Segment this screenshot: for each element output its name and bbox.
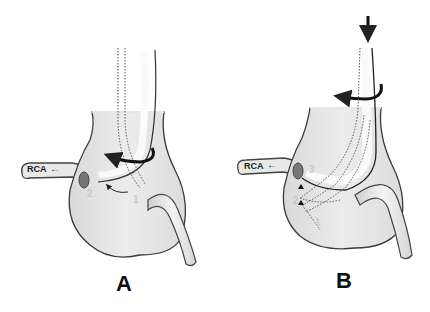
panel-b: 3 2 1 — [238, 16, 412, 259]
panel-label-b: B — [336, 268, 352, 294]
coronary-ostium-b — [293, 163, 303, 179]
step-label-3-b: 3 — [309, 164, 315, 175]
rca-label-a: RCA — [27, 164, 47, 174]
panel-label-a: A — [116, 271, 132, 297]
step-label-2-a: 2 — [87, 188, 93, 199]
rca-arrow-a: ← — [50, 163, 60, 174]
coronary-ostium-a — [79, 172, 89, 188]
step-label-1-a: 1 — [133, 194, 139, 205]
diagram-canvas: 2 1 3 2 1 — [0, 0, 430, 312]
panel-a: 2 1 — [22, 48, 196, 266]
rca-label-b: RCA — [244, 161, 264, 171]
rotation-arrow-b — [342, 84, 381, 99]
step-label-1-b: 1 — [315, 217, 321, 228]
step-label-2-b: 2 — [293, 195, 299, 206]
rca-arrow-b: ← — [267, 159, 277, 170]
